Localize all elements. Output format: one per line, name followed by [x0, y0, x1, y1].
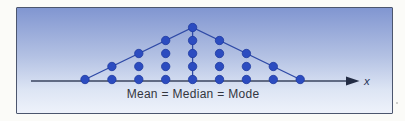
data-dot	[215, 75, 223, 83]
data-dot	[188, 62, 196, 70]
data-dot	[162, 75, 170, 83]
data-dot	[242, 75, 250, 83]
data-dot	[162, 62, 170, 70]
data-dot	[108, 75, 116, 83]
data-dot	[215, 49, 223, 57]
data-dot	[215, 62, 223, 70]
data-dot	[81, 75, 89, 83]
speck-artifact	[396, 102, 398, 104]
data-dot	[242, 49, 250, 57]
data-dot	[188, 49, 196, 57]
data-dot	[296, 75, 304, 83]
data-dot	[135, 49, 143, 57]
distribution-figure-panel: x Mean = Median = Mode	[16, 7, 393, 114]
figure-caption: Mean = Median = Mode	[127, 87, 260, 101]
data-dot	[188, 36, 196, 44]
data-dot	[108, 62, 116, 70]
data-dot	[242, 62, 250, 70]
x-axis-label: x	[363, 75, 371, 87]
data-dot	[135, 62, 143, 70]
data-dot	[215, 36, 223, 44]
dot-plot-svg: x Mean = Median = Mode	[17, 8, 392, 113]
data-dot	[135, 75, 143, 83]
data-dot	[162, 36, 170, 44]
data-dot	[188, 75, 196, 83]
data-dot	[269, 62, 277, 70]
x-axis-arrowhead-icon	[346, 77, 360, 86]
data-dot	[269, 75, 277, 83]
data-dot	[188, 23, 196, 31]
data-dot	[162, 49, 170, 57]
